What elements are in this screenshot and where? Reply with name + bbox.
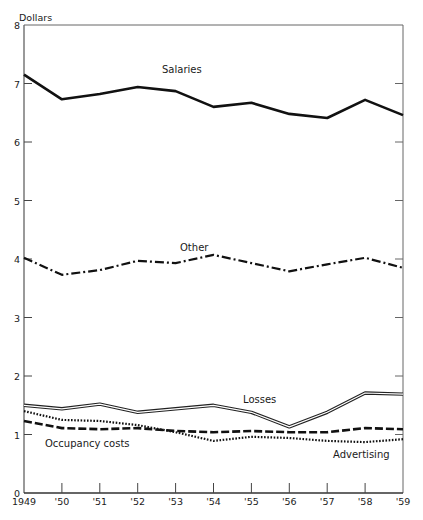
series-line-losses xyxy=(24,393,403,427)
series-labels: SalariesOtherLossesOccupancy costsAdvert… xyxy=(45,64,390,460)
label-other: Other xyxy=(180,242,209,253)
x-tick-label: 1949 xyxy=(12,496,36,507)
label-salaries: Salaries xyxy=(162,64,202,75)
y-tick-label: 4 xyxy=(14,254,20,265)
x-tick-label: '59 xyxy=(396,496,411,507)
x-tick-label: '56 xyxy=(282,496,297,507)
y-tick-label: 7 xyxy=(14,79,20,90)
x-tick-label: '58 xyxy=(358,496,373,507)
y-tick-label: 2 xyxy=(14,371,20,382)
x-tick-label: '51 xyxy=(92,496,107,507)
series-line-salaries xyxy=(24,75,403,118)
x-tick-label: '54 xyxy=(206,496,221,507)
y-tick-label: 6 xyxy=(14,137,20,148)
label-losses: Losses xyxy=(243,394,276,405)
label-advertising: Advertising xyxy=(333,449,390,460)
x-tick-label: '53 xyxy=(168,496,183,507)
label-occupancy-costs: Occupancy costs xyxy=(45,438,130,449)
y-tick-label: 5 xyxy=(14,196,20,207)
series-line-losses xyxy=(24,393,403,427)
y-tick-label: 3 xyxy=(14,313,20,324)
series-line-other xyxy=(24,255,403,275)
series-lines xyxy=(24,75,403,442)
x-tick-label: '55 xyxy=(244,496,259,507)
x-tick-label: '57 xyxy=(320,496,335,507)
x-tick-label: '52 xyxy=(130,496,145,507)
y-axis-label: Dollars xyxy=(19,12,52,23)
y-tick-label: 1 xyxy=(14,430,20,441)
series-line-occupancy-costs xyxy=(24,421,403,432)
line-chart: 012345678Dollars1949'50'51'52'53'54'55'5… xyxy=(0,0,423,520)
x-tick-label: '50 xyxy=(55,496,70,507)
